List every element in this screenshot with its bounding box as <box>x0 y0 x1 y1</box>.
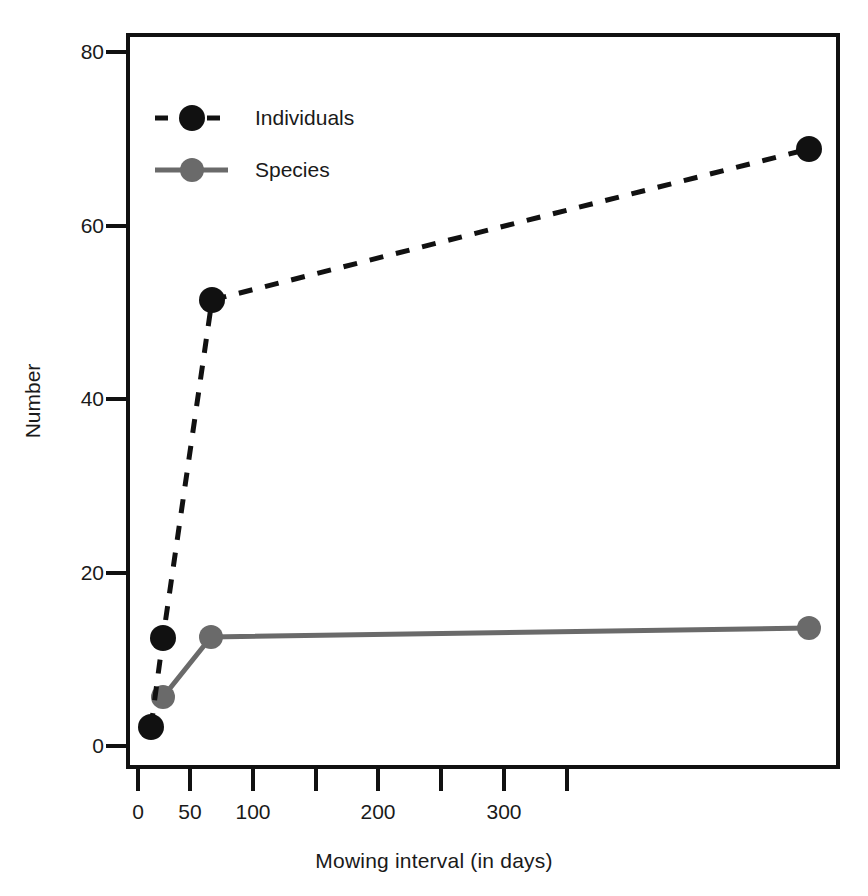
x-tick-label: 0 <box>132 800 144 824</box>
x-tick-label: 200 <box>360 800 395 824</box>
y-tick-label: 40 <box>81 387 104 411</box>
species-point <box>199 625 223 649</box>
y-axis-caption: Number <box>21 346 45 456</box>
individuals-point <box>199 287 225 313</box>
x-tick-label: 50 <box>178 800 201 824</box>
legend-label-individuals: Individuals <box>255 106 354 130</box>
plot-frame <box>128 35 838 767</box>
x-tick-label: 300 <box>486 800 521 824</box>
legend-label-species: Species <box>255 158 330 182</box>
y-tick-label: 20 <box>81 561 104 585</box>
y-axis-caption-wrap: Number <box>0 338 64 468</box>
chart-figure: 80 60 40 20 0 0 50 100 200 300 Individua… <box>0 0 868 896</box>
x-tick-label: 100 <box>235 800 270 824</box>
individuals-point <box>138 714 164 740</box>
species-point <box>797 616 821 640</box>
y-tick-label: 80 <box>81 40 104 64</box>
individuals-point <box>796 136 822 162</box>
y-tick-label: 0 <box>92 734 104 758</box>
y-tick-label: 60 <box>81 214 104 238</box>
y-axis-ticks <box>106 52 128 746</box>
plot-area <box>0 0 868 896</box>
x-axis-caption: Mowing interval (in days) <box>0 849 868 873</box>
individuals-point <box>150 625 176 651</box>
x-axis-ticks <box>138 767 567 791</box>
